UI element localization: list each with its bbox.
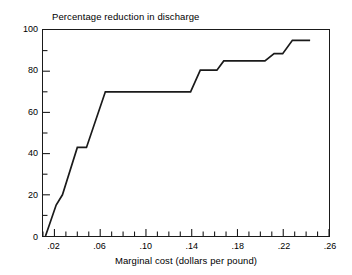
x-tick-label: .10 bbox=[139, 241, 152, 251]
x-axis-title: Marginal cost (dollars per pound) bbox=[42, 255, 330, 267]
y-tick-label: 20 bbox=[8, 191, 38, 200]
x-tick-label: .22 bbox=[278, 241, 291, 251]
y-tick-label: 0 bbox=[8, 233, 38, 242]
y-tick-label: 100 bbox=[8, 25, 38, 34]
y-tick-label: 60 bbox=[8, 108, 38, 117]
data-series-line bbox=[46, 40, 311, 236]
y-axis-ticks bbox=[43, 51, 50, 216]
x-tick-label: .26 bbox=[324, 241, 337, 251]
x-tick-label: .06 bbox=[93, 241, 106, 251]
x-axis-tick-labels: .02.06.10.14.18.22.26 bbox=[42, 241, 330, 255]
y-tick-label: 40 bbox=[8, 149, 38, 158]
x-tick-label: .14 bbox=[185, 241, 198, 251]
y-tick-label: 80 bbox=[8, 66, 38, 75]
x-tick-label: .18 bbox=[232, 241, 245, 251]
chart-title: Percentage reduction in discharge bbox=[52, 11, 199, 23]
x-tick-label: .02 bbox=[47, 241, 60, 251]
x-axis-ticks bbox=[43, 229, 329, 236]
chart-figure: Percentage reduction in discharge 020406… bbox=[0, 0, 352, 275]
y-axis-tick-labels: 020406080100 bbox=[5, 29, 38, 237]
plot-area bbox=[42, 29, 330, 237]
plot-canvas bbox=[43, 30, 329, 236]
